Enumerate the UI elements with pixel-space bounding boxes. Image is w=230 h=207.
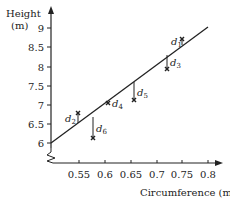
scatter-chart: 9 8.5 8 7.5 7 6.5 6 0.55 0.6 0.65 0.7 0.… [0, 0, 230, 207]
label-d6: d6 [96, 123, 107, 136]
x-axis [58, 160, 223, 166]
data-points [76, 37, 184, 140]
residual-segments [78, 39, 182, 138]
x-tick-label: 0.7 [149, 169, 165, 180]
y-axis-title-unit: (m) [11, 20, 28, 31]
x-axis-title: Circumference (m) [140, 187, 230, 198]
label-d5: d5 [137, 87, 148, 100]
label-d2: d2 [65, 113, 76, 126]
label-d4: d4 [112, 98, 123, 111]
y-tick-label: 9 [38, 23, 44, 34]
y-tick-label: 6 [38, 138, 44, 149]
y-ticks: 9 8.5 8 7.5 7 6.5 6 [28, 23, 51, 149]
y-tick-label: 6.5 [28, 119, 44, 130]
residual-labels: d1 d2 d3 d4 d5 d6 [65, 36, 182, 136]
y-tick-label: 7.5 [28, 81, 44, 92]
y-axis-title: Height [6, 8, 41, 19]
x-tick-label: 0.65 [120, 169, 142, 180]
y-tick-label: 8 [38, 62, 44, 73]
label-d3: d3 [170, 57, 181, 70]
y-tick-label: 7 [38, 100, 44, 111]
x-tick-label: 0.6 [97, 169, 113, 180]
y-tick-label: 8.5 [28, 42, 44, 53]
x-tick-label: 0.8 [200, 169, 216, 180]
x-tick-label: 0.55 [68, 169, 90, 180]
x-tick-label: 0.75 [171, 169, 193, 180]
